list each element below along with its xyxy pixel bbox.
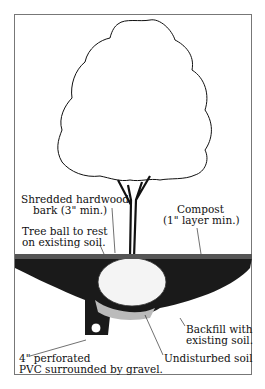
tree-trunk — [118, 176, 150, 258]
label-compost: Compost (1" layer min.) — [163, 204, 240, 226]
label-undisturbed-soil: Undisturbed soil — [164, 353, 253, 364]
tree-canopy — [58, 20, 212, 181]
label-pvc: 4" perforated PVC surrounded by gravel. — [19, 353, 163, 375]
pvc-pipe — [91, 323, 101, 333]
label-backfill: Backfill with existing soil. — [186, 324, 253, 346]
root-ball — [98, 258, 166, 306]
label-bark: Shredded hardwood bark (3" min.) — [21, 194, 129, 216]
label-tree-ball: Tree ball to rest on existing soil. — [22, 226, 108, 248]
mulch-layer — [15, 254, 252, 259]
